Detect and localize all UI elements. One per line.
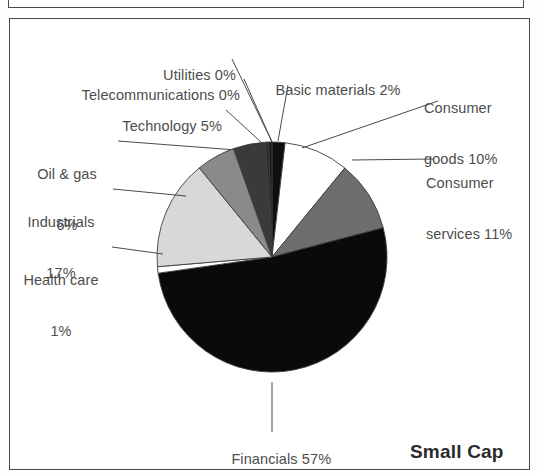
pie-label-financials-text: Financials 57% — [231, 451, 331, 467]
pie-label-basic-materials-text: Basic materials 2% — [276, 82, 401, 98]
pie-label-consumer-services-line2: services 11% — [426, 226, 538, 243]
leader-line-consumer-services — [352, 159, 433, 160]
pie-label-consumer-services: Consumer services 11% — [426, 141, 538, 277]
chart-title: Small Cap — [410, 441, 504, 463]
screenshot-stage: Utilities 0% Telecommunications 0% Techn… — [0, 0, 538, 475]
pie-slice-group — [157, 142, 387, 372]
pie-label-basic-materials: Basic materials 2% — [259, 65, 429, 116]
pie-label-technology-text: Technology 5% — [122, 118, 222, 134]
pie-label-financials: Financials 57% — [212, 434, 334, 475]
pie-label-consumer-services-line1: Consumer — [426, 175, 538, 192]
pie-label-consumer-goods-line1: Consumer — [424, 100, 536, 117]
pie-label-health-care-line2: 1% — [12, 323, 110, 340]
pie-label-health-care: Health care 1% — [12, 238, 110, 374]
leader-line-industrials — [113, 189, 186, 196]
leader-line-health-care — [112, 247, 163, 254]
pie-label-industrials-line1: Industrials — [12, 214, 110, 231]
pie-label-health-care-line1: Health care — [12, 272, 110, 289]
